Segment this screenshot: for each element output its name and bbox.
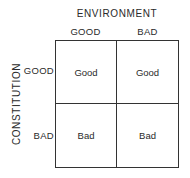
constitution-axis-title: CONSTITUTION [11,63,22,145]
outcome-matrix: Good Good Bad Bad [55,40,179,168]
environment-axis-title: ENVIRONMENT [55,8,179,19]
cell-good-constitution-good-environment: Good [56,41,117,104]
cell-bad-constitution-bad-environment: Bad [117,104,178,167]
row-header-bad: BAD [22,130,56,141]
cell-bad-constitution-good-environment: Bad [56,104,117,167]
cell-good-constitution-bad-environment: Good [117,41,178,104]
row-header-good: GOOD [22,65,56,76]
column-header-good: GOOD [55,26,116,37]
column-header-bad: BAD [116,26,179,37]
